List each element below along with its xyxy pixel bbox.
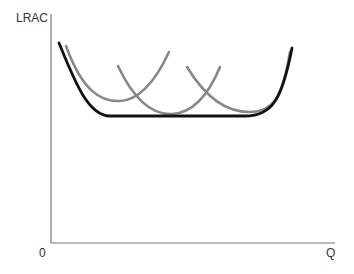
x-axis-label: Q bbox=[326, 246, 335, 260]
chart-canvas bbox=[0, 0, 354, 274]
y-axis-label: LRAC bbox=[16, 11, 48, 25]
lrac-curve bbox=[59, 43, 292, 116]
origin-label: 0 bbox=[39, 246, 46, 260]
